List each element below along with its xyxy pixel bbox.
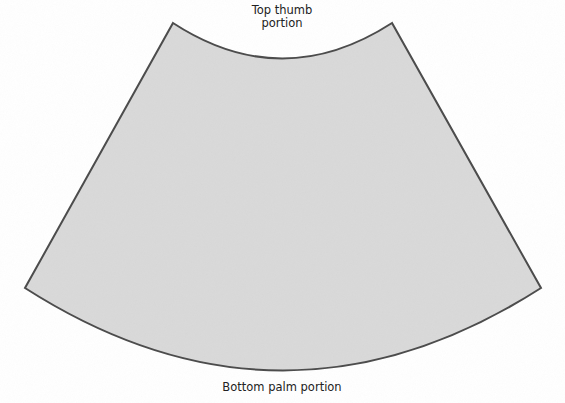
bottom-palm-portion-label: Bottom palm portion bbox=[182, 381, 382, 394]
top-thumb-portion-label: Top thumb portion bbox=[232, 4, 332, 30]
pattern-piece-diagram bbox=[0, 0, 565, 403]
top-label-line2: portion bbox=[232, 17, 332, 30]
